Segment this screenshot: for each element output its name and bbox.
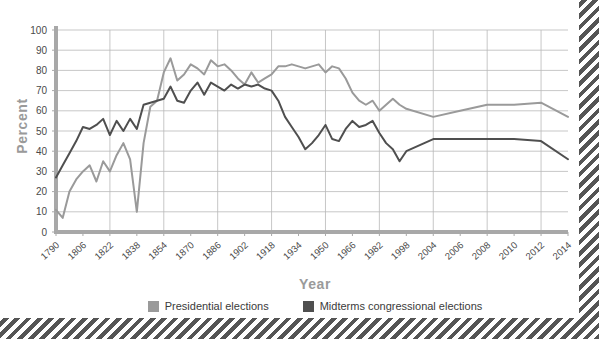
- x-tick-label: 1790: [38, 239, 61, 261]
- legend-item-presidential[interactable]: Presidential elections: [148, 300, 269, 312]
- y-tick-label: 80: [36, 65, 48, 76]
- x-tick-label: 1806: [65, 239, 88, 261]
- data-series: [56, 58, 568, 218]
- x-tick-label: 1870: [173, 239, 196, 261]
- legend-swatch-midterms: [303, 301, 314, 312]
- x-tick-label: 2004: [416, 239, 439, 261]
- x-tick-label: 2012: [523, 239, 546, 261]
- x-axis-title: Year: [55, 276, 575, 292]
- x-tick-label: 2010: [496, 239, 519, 261]
- y-tick-label: 0: [41, 227, 47, 238]
- y-tick-label: 20: [36, 186, 48, 197]
- legend-item-midterms[interactable]: Midterms congressional elections: [303, 300, 483, 312]
- axis-lines: [54, 26, 568, 232]
- x-tick-label: 1918: [254, 239, 277, 261]
- decorative-stripe-right: [579, 0, 599, 339]
- chart-legend: Presidential elections Midterms congress…: [55, 300, 575, 312]
- x-tick-label: 1950: [308, 239, 331, 261]
- legend-label-presidential: Presidential elections: [165, 300, 269, 312]
- gridlines: [52, 30, 568, 236]
- x-tick-label: 2014: [550, 239, 573, 261]
- y-tick-label: 40: [36, 146, 48, 157]
- series-line-presidential: [56, 58, 568, 218]
- chart-plot-area: 0102030405060708090100 17901806182218381…: [0, 0, 579, 318]
- x-tick-label: 1982: [362, 239, 385, 261]
- x-tick-label: 1838: [119, 239, 142, 261]
- x-tick-label: 1998: [389, 239, 412, 261]
- x-tick-label: 1822: [92, 239, 115, 261]
- y-tick-label: 50: [36, 126, 48, 137]
- x-tick-label: 1854: [146, 239, 169, 261]
- y-tick-label: 70: [36, 85, 48, 96]
- x-tick-label: 2008: [469, 239, 492, 261]
- x-tick-label: 1902: [227, 239, 250, 261]
- legend-label-midterms: Midterms congressional elections: [320, 300, 483, 312]
- y-tick-label: 30: [36, 166, 48, 177]
- y-tick-label: 60: [36, 105, 48, 116]
- x-axis-ticks: 1790180618221838185418701886190219181934…: [38, 239, 573, 261]
- series-line-midterms: [56, 83, 568, 178]
- y-axis-ticks: 0102030405060708090100: [30, 25, 47, 238]
- y-tick-label: 10: [36, 206, 48, 217]
- y-tick-label: 90: [36, 45, 48, 56]
- legend-swatch-presidential: [148, 301, 159, 312]
- x-tick-label: 1886: [200, 239, 223, 261]
- y-tick-label: 100: [30, 25, 47, 36]
- y-axis-title: Percent: [14, 71, 30, 181]
- voter-turnout-line-chart: 0102030405060708090100 17901806182218381…: [0, 0, 579, 318]
- x-tick-label: 1966: [335, 239, 358, 261]
- x-tick-label: 1934: [281, 239, 304, 261]
- x-tick-label: 2006: [442, 239, 465, 261]
- decorative-stripe-bottom: [0, 318, 599, 339]
